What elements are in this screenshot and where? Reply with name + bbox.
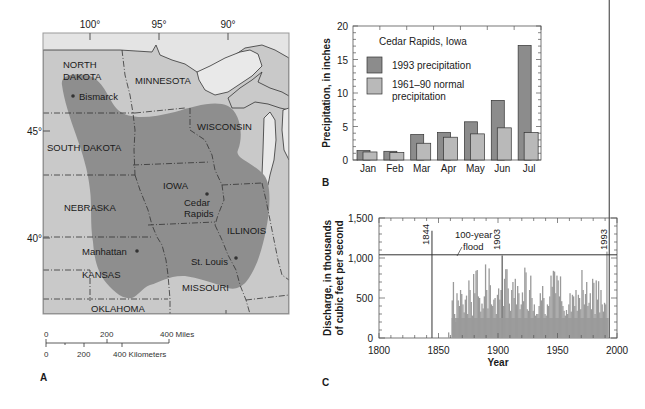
- state-label: MINNESOTA: [135, 75, 191, 86]
- chart-b-ytick-label: 5: [342, 122, 348, 133]
- city-label: Rapids: [184, 208, 214, 219]
- chart-c-ytick-label: 1,500: [348, 213, 373, 224]
- chart-b-ylabel: Precipitation, in inches: [321, 38, 332, 148]
- legend-swatch-1993: [367, 57, 382, 73]
- year-annotation: 1844: [420, 224, 431, 245]
- scale-miles-0: 0: [44, 330, 49, 339]
- state-label: KANSAS: [82, 269, 121, 280]
- bar-normal: [363, 152, 377, 160]
- state-label: NEBRASKA: [64, 202, 116, 213]
- bar-normal: [524, 133, 538, 160]
- longitude-label: 100°: [80, 19, 101, 30]
- panel-b-letter: B: [322, 177, 329, 188]
- chart-c-xtick-label: 2000: [606, 345, 629, 356]
- legend-swatch-normal: [367, 78, 382, 94]
- chart-c-ylabel-line2: of cubic feet per second: [334, 220, 345, 335]
- chart-b-xtick-label: Mar: [413, 163, 431, 174]
- scale-km-0: 0: [44, 350, 49, 359]
- chart-c-ytick-label: 0: [367, 333, 373, 344]
- flood-line-label: 100-year: [455, 229, 493, 240]
- state-label: SOUTH DAKOTA: [47, 142, 122, 153]
- state-label: DAKOTA: [63, 71, 102, 82]
- figure: 100°95°90° 45°40° NORTHDAKOTAMINNESOTAWI…: [0, 0, 645, 409]
- bar-normal: [417, 143, 431, 160]
- state-label: WISCONSIN: [197, 121, 252, 132]
- state-label: NORTH: [63, 59, 97, 70]
- chart-b-xtick-label: Jul: [523, 163, 536, 174]
- state-label: MISSOURI: [182, 282, 229, 293]
- discharge-bar: [448, 332, 449, 338]
- flood-line-label: flood: [463, 241, 484, 252]
- chart-b-title: Cedar Rapids, Iowa: [379, 36, 467, 47]
- chart-b-xtick-label: May: [466, 163, 485, 174]
- bar-normal: [470, 134, 484, 160]
- year-annotation: 1903: [491, 229, 502, 250]
- chart-c-ytick-label: 500: [356, 293, 373, 304]
- chart-b-xtick-label: Jun: [494, 163, 510, 174]
- scale-km-400: 400 Kilometers: [113, 350, 166, 359]
- city-label: Cedar: [184, 197, 210, 208]
- chart-c-ytick-label: 1,000: [348, 253, 373, 264]
- chart-c-ylabel-line1: Discharge, in thousands: [322, 219, 333, 336]
- chart-b-ytick-label: 10: [337, 88, 349, 99]
- scale-bar: [46, 339, 169, 347]
- scale-miles-200: 200: [100, 330, 114, 339]
- chart-b-xtick-label: Jan: [360, 163, 376, 174]
- legend-label-1993: 1993 precipitation: [392, 60, 471, 71]
- chart-b-x-labels: JanFebMarAprMayJunJul: [360, 163, 536, 174]
- chart-c-xtick-label: 1950: [546, 345, 569, 356]
- bar-normal: [390, 153, 404, 160]
- chart-b-ytick-label: 15: [337, 55, 349, 66]
- chart-c-xlabel: Year: [487, 357, 508, 368]
- bar-normal: [497, 128, 511, 160]
- chart-b-xtick-label: Feb: [386, 163, 404, 174]
- longitude-label: 95°: [151, 19, 166, 30]
- city-dot-icon: [234, 256, 238, 260]
- chart-b-xtick-label: Apr: [441, 163, 457, 174]
- year-annotation: 1993: [598, 229, 609, 250]
- panel-b-precipitation-chart: 05101520 JanFebMarAprMayJunJul Precipita…: [321, 21, 541, 188]
- panel-c-letter: C: [322, 377, 329, 388]
- legend-label-normal-line2: precipitation: [392, 91, 446, 102]
- scale-bar-labels: 0 200 400 Miles 0 200 400 Kilometers: [44, 330, 194, 359]
- city-label: Bismarck: [79, 91, 118, 102]
- panel-a-letter: A: [40, 372, 47, 383]
- city-dot-icon: [71, 94, 75, 98]
- chart-c-xtick-label: 1900: [487, 345, 510, 356]
- state-label: IOWA: [163, 180, 189, 191]
- chart-c-xtick-label: 1850: [427, 345, 450, 356]
- chart-b-ytick-label: 0: [342, 155, 348, 166]
- scale-miles-400: 400 Miles: [160, 330, 194, 339]
- scale-km-200: 200: [77, 350, 91, 359]
- chart-b-ytick-label: 20: [337, 21, 349, 32]
- city-label: St. Louis: [191, 256, 228, 267]
- latitude-label: 45°: [27, 126, 42, 137]
- chart-c-xtick-label: 1800: [368, 345, 391, 356]
- city-label: Manhattan: [82, 246, 127, 257]
- city-dot-icon: [205, 192, 209, 196]
- legend-label-normal-line1: 1961–90 normal: [392, 79, 464, 90]
- state-label: ILLINOIS: [227, 225, 266, 236]
- state-label: OKLAHOMA: [91, 303, 146, 314]
- panel-a-map: 100°95°90° 45°40° NORTHDAKOTAMINNESOTAWI…: [27, 19, 289, 383]
- city-dot-icon: [135, 249, 139, 253]
- longitude-label: 90°: [220, 19, 235, 30]
- bar-normal: [444, 137, 458, 160]
- latitude-label: 40°: [27, 233, 42, 244]
